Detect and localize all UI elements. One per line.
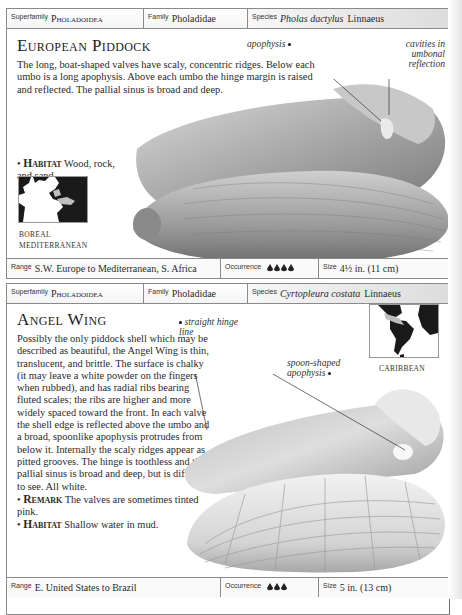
annotation-text: apophysis [247, 38, 285, 49]
species-author: Linnaeus [348, 13, 385, 24]
annotation-text: spoon-shaped apophysis [287, 357, 340, 378]
pointer-dot [288, 43, 291, 46]
family-label: Family [148, 13, 169, 20]
annotation-straight-hinge-line: straight hinge line [179, 317, 241, 337]
family-cell: Family Pholadidae [144, 9, 248, 28]
entry-card-angel-wing: Superfamily Pholadoidea Family Pholadida… [6, 283, 450, 615]
shell-rating-icon [267, 583, 273, 592]
size-label: Size [323, 582, 337, 589]
map-icon [370, 305, 438, 357]
entry-footer: Range E. United States to Brazil Occurre… [7, 577, 449, 597]
range-cell: Range S.W. Europe to Mediterranean, S. A… [7, 259, 221, 278]
family-value: Pholadidae [172, 13, 216, 24]
range-value: S.W. Europe to Mediterranean, S. Africa [35, 263, 197, 274]
annotation-text: straight hinge line [179, 316, 238, 337]
occurrence-cell: Occurrence [221, 259, 319, 278]
shell-illustration-piddock [133, 79, 449, 264]
superfamily-value: Pholadoidea [51, 288, 103, 299]
species-cell: Species Pholas dactylus Linnaeus [248, 9, 449, 28]
annotation-text: cavities in umbonal reflection [406, 38, 445, 69]
range-cell: Range E. United States to Brazil [7, 578, 221, 597]
family-value: Pholadidae [172, 288, 216, 299]
superfamily-cell: Superfamily Pholadoidea [7, 284, 144, 303]
size-cell: Size 5 in. (13 cm) [319, 578, 449, 597]
occurrence-label: Occurrence [225, 582, 261, 589]
size-value: 5 in. (13 cm) [340, 582, 392, 593]
entry-description: The long, boat-shaped valves have scaly,… [17, 59, 141, 96]
range-value: E. United States to Brazil [35, 582, 137, 593]
pointer-dot [179, 321, 182, 324]
entry-description: Possibly the only piddock shell which ma… [17, 333, 213, 532]
shell-rating-icon [288, 264, 294, 273]
range-label: Range [11, 582, 32, 589]
remark-line: • Remark The valves are sometimes tinted… [17, 493, 213, 519]
shell-illustration-angel-wing [185, 374, 447, 574]
map-label-boreal: BOREAL [19, 229, 51, 240]
shell-rating-icon [274, 583, 280, 592]
superfamily-cell: Superfamily Pholadoidea [7, 9, 144, 28]
size-label: Size [323, 263, 337, 270]
habitat-label: Habitat [23, 157, 61, 169]
range-label: Range [11, 263, 32, 270]
remark-label: Remark [23, 493, 62, 505]
species-name: Cyrtopleura costata [280, 288, 360, 299]
shell-rating-icon [281, 583, 287, 592]
species-cell: Species Cyrtopleura costata Linnaeus [248, 284, 449, 303]
superfamily-value: Pholadoidea [51, 13, 103, 24]
species-name: Pholas dactylus [280, 13, 344, 24]
family-cell: Family Pholadidae [144, 284, 248, 303]
distribution-map-caribbean [369, 304, 439, 358]
map-label-mediterranean: MEDITERRANEAN [19, 240, 87, 251]
occurrence-rating [267, 264, 294, 273]
occurrence-label: Occurrence [225, 263, 261, 270]
occurrence-rating [267, 583, 287, 592]
entry-card-european-piddock: Superfamily Pholadoidea Family Pholadida… [6, 8, 450, 279]
distribution-map-europe [18, 176, 88, 223]
map-label-caribbean: CARIBBEAN [379, 363, 425, 374]
description-text: Possibly the only piddock shell which ma… [17, 333, 213, 493]
family-label: Family [148, 288, 169, 295]
species-label: Species [252, 288, 277, 295]
habitat-label: Habitat [23, 518, 61, 530]
superfamily-label: Superfamily [11, 288, 48, 295]
habitat-value: Shallow water in mud. [64, 519, 158, 530]
entry-footer: Range S.W. Europe to Mediterranean, S. A… [7, 258, 449, 278]
size-value: 4½ in. (11 cm) [340, 263, 399, 274]
map-icon [19, 177, 87, 222]
occurrence-cell: Occurrence [221, 578, 319, 597]
annotation-cavities: cavities in umbonal reflection [385, 39, 445, 69]
entry-title: European Piddock [17, 36, 151, 56]
species-author: Linnaeus [364, 288, 401, 299]
species-label: Species [252, 13, 277, 20]
habitat-line: • Habitat Shallow water in mud. [17, 518, 213, 531]
page-gutter-shadow [448, 0, 462, 599]
shell-rating-icon [274, 264, 280, 273]
pointer-dot [328, 372, 331, 375]
entry-title: Angel Wing [17, 310, 107, 330]
superfamily-label: Superfamily [11, 13, 48, 20]
annotation-apophysis: apophysis [247, 39, 291, 49]
shell-rating-icon [281, 264, 287, 273]
entry-header: Superfamily Pholadoidea Family Pholadida… [7, 9, 449, 29]
annotation-spoon-shaped-apophysis: spoon-shaped apophysis [287, 358, 351, 378]
shell-rating-icon [267, 264, 273, 273]
entry-header: Superfamily Pholadoidea Family Pholadida… [7, 284, 449, 304]
size-cell: Size 4½ in. (11 cm) [319, 259, 449, 278]
